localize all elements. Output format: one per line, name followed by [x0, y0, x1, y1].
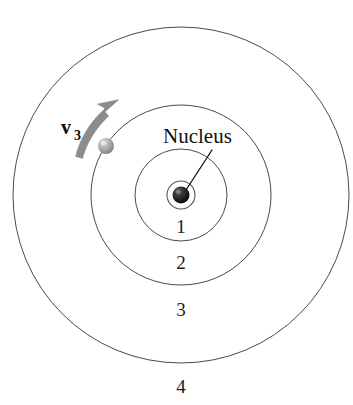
bohr-atom-figure: v 3 Nucleus 1 2 3 4 — [0, 0, 353, 405]
bohr-atom-diagram: v 3 Nucleus 1 2 3 4 — [0, 0, 353, 405]
electron-sphere — [98, 138, 114, 154]
nucleus-label: Nucleus — [163, 124, 232, 148]
electron-specular-highlight — [101, 141, 106, 146]
orbit-label-3: 3 — [176, 299, 186, 320]
orbit-label-4: 4 — [176, 376, 186, 397]
nucleus-leader-line — [186, 150, 212, 190]
velocity-label-symbol: v — [61, 116, 71, 138]
orbit-label-2: 2 — [176, 252, 186, 273]
orbit-label-1: 1 — [176, 216, 186, 237]
velocity-label-subscript: 3 — [74, 128, 81, 143]
nucleus-specular-highlight — [176, 190, 180, 194]
